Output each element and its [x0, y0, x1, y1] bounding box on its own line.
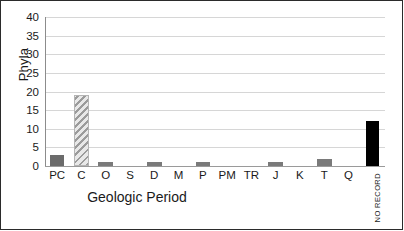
- bar-d: [147, 162, 162, 166]
- x-tick-s: S: [118, 169, 142, 189]
- x-tick-c: C: [69, 169, 93, 189]
- x-tick-m: M: [166, 169, 190, 189]
- x-tick-labels: PCCOSDMPPMTRJKTQ: [45, 169, 385, 189]
- y-tick-35: 35: [9, 30, 39, 42]
- x-tick-q: Q: [336, 169, 360, 189]
- bar-slot-o: [94, 17, 118, 166]
- x-tick-p: P: [191, 169, 215, 189]
- y-tick-30: 30: [9, 48, 39, 60]
- bar-series: [45, 17, 385, 166]
- x-tick-o: O: [94, 169, 118, 189]
- gridline-0: [45, 166, 385, 167]
- bar-slot-c: [69, 17, 93, 166]
- no-record-annotation: NO RECORD: [373, 173, 387, 222]
- bar-slot-q: [336, 17, 360, 166]
- bar-slot-s: [118, 17, 142, 166]
- bar-o: [98, 162, 113, 166]
- y-tick-25: 25: [9, 67, 39, 79]
- x-axis-title: Geologic Period: [37, 189, 237, 205]
- y-tick-10: 10: [9, 123, 39, 135]
- plot-area: 0510152025303540: [45, 17, 385, 166]
- bar-slot-t: [312, 17, 336, 166]
- bar-t: [317, 159, 332, 166]
- y-tick-0: 0: [9, 160, 39, 172]
- bar-slot-no-record: [361, 17, 385, 166]
- bar-slot-pm: [215, 17, 239, 166]
- bar-slot-m: [166, 17, 190, 166]
- bar-slot-j: [264, 17, 288, 166]
- bar-slot-k: [288, 17, 312, 166]
- x-tick-tr: TR: [239, 169, 263, 189]
- bar-slot-pc: [45, 17, 69, 166]
- bar-no-record: [366, 121, 379, 166]
- y-tick-5: 5: [9, 141, 39, 153]
- x-tick-t: T: [312, 169, 336, 189]
- x-tick-pc: PC: [45, 169, 69, 189]
- bar-slot-tr: [239, 17, 263, 166]
- y-tick-40: 40: [9, 11, 39, 23]
- x-tick-j: J: [264, 169, 288, 189]
- bar-p: [196, 162, 211, 166]
- y-tick-20: 20: [9, 86, 39, 98]
- x-tick-k: K: [288, 169, 312, 189]
- bar-c: [74, 95, 89, 166]
- x-tick-pm: PM: [215, 169, 239, 189]
- bar-slot-p: [191, 17, 215, 166]
- bar-pc: [50, 155, 65, 166]
- y-tick-15: 15: [9, 104, 39, 116]
- bar-j: [268, 162, 283, 166]
- x-tick-d: D: [142, 169, 166, 189]
- chart-figure: Phyla 0510152025303540 PCCOSDMPPMTRJKTQ …: [0, 0, 403, 230]
- bar-slot-d: [142, 17, 166, 166]
